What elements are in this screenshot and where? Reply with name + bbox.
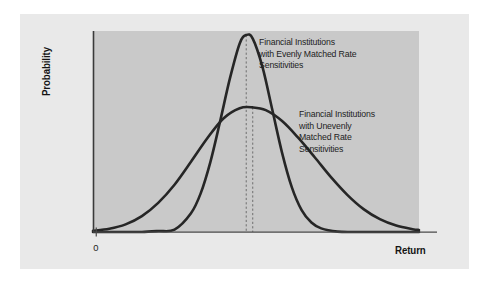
guide-lines (246, 35, 253, 232)
x-axis-zero-label: 0 (93, 242, 98, 253)
x-axis-label: Return (395, 245, 426, 256)
annotation-evenly-matched: Financial Institutions with Evenly Match… (259, 36, 356, 71)
annotation-unevenly-matched: Financial Institutions with Unevenly Mat… (299, 108, 375, 154)
y-axis-label: Probability (41, 1, 52, 96)
chart-screenshot: Financial Institutions with Evenly Match… (0, 0, 492, 293)
